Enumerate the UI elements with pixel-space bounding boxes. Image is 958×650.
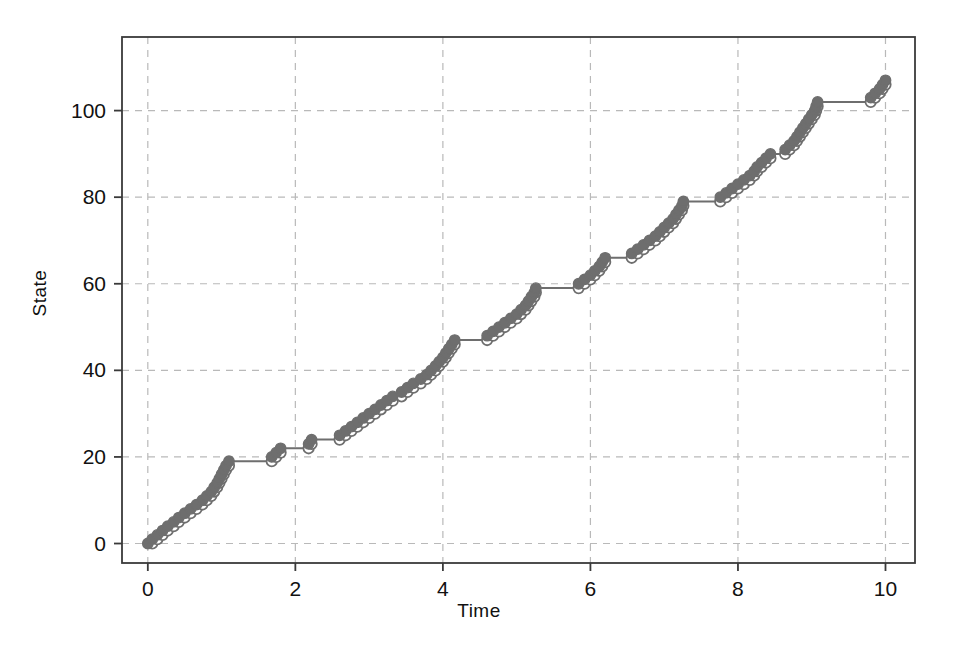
chart-figure: 0246810020406080100 Time State [0, 0, 958, 650]
grid-lines [122, 37, 915, 563]
y-axis-title: State [29, 233, 51, 353]
plot-frame [122, 37, 915, 563]
data-filled-markers [143, 75, 891, 549]
svg-text:60: 60 [83, 272, 106, 295]
svg-text:0: 0 [142, 577, 154, 600]
step-plot-canvas: 0246810020406080100 [0, 0, 958, 650]
tick-labels: 0246810020406080100 [71, 99, 897, 600]
svg-text:0: 0 [94, 532, 106, 555]
x-axis-title: Time [0, 600, 958, 622]
svg-text:4: 4 [437, 577, 449, 600]
svg-text:8: 8 [732, 577, 744, 600]
svg-text:80: 80 [83, 185, 106, 208]
svg-text:20: 20 [83, 445, 106, 468]
svg-text:6: 6 [585, 577, 597, 600]
svg-text:100: 100 [71, 99, 106, 122]
svg-text:10: 10 [874, 577, 897, 600]
axis-ticks [114, 111, 885, 571]
svg-text:2: 2 [290, 577, 302, 600]
svg-text:40: 40 [83, 358, 106, 381]
